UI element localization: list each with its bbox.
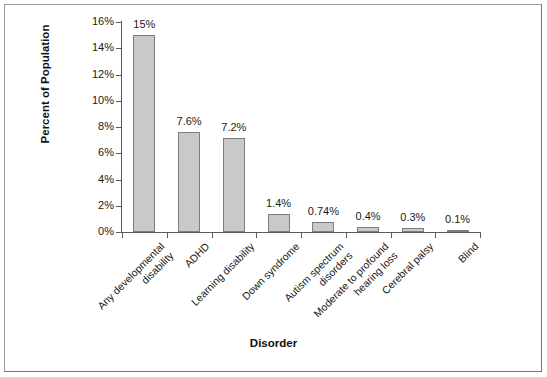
bar <box>178 132 200 232</box>
y-axis-tick <box>116 75 121 76</box>
x-axis-tick <box>301 233 302 238</box>
y-axis-tick <box>116 180 121 181</box>
y-axis-tick <box>116 206 121 207</box>
y-axis-tick <box>116 48 121 49</box>
bar-value-label: 15% <box>114 18 174 30</box>
y-axis-tick-label: 0% <box>78 225 114 237</box>
x-axis-tick <box>435 233 436 238</box>
y-axis-line <box>121 21 122 233</box>
bar <box>268 214 290 232</box>
x-axis-tick <box>256 233 257 238</box>
y-axis-tick <box>116 127 121 128</box>
y-axis-tick-label: 2% <box>78 199 114 211</box>
y-axis-tick-label: 14% <box>78 41 114 53</box>
y-axis-tick <box>116 232 121 233</box>
x-axis-tick <box>480 233 481 238</box>
y-axis-title: Percent of Population <box>39 4 51 164</box>
y-axis-tick-label: 6% <box>78 146 114 158</box>
y-axis-tick-label: 16% <box>78 15 114 27</box>
y-axis-tick <box>116 101 121 102</box>
bar-value-label: 7.2% <box>204 121 264 133</box>
y-axis-tick-label: 10% <box>78 94 114 106</box>
bar <box>133 35 155 232</box>
y-axis-tick-label: 8% <box>78 120 114 132</box>
bar <box>312 222 334 232</box>
bar <box>447 230 469 232</box>
bar <box>402 228 424 232</box>
chart-figure: Percent of Population Disorder 0%2%4%6%8… <box>0 0 547 377</box>
bar <box>357 227 379 232</box>
y-axis-tick-label: 12% <box>78 68 114 80</box>
y-axis-tick <box>116 153 121 154</box>
x-axis-tick <box>212 233 213 238</box>
x-axis-tick <box>167 233 168 238</box>
bar <box>223 138 245 233</box>
x-axis-tick <box>346 233 347 238</box>
x-axis-tick <box>391 233 392 238</box>
bar-value-label: 0.1% <box>428 213 488 225</box>
x-axis-tick <box>122 233 123 238</box>
y-axis-tick-label: 4% <box>78 173 114 185</box>
